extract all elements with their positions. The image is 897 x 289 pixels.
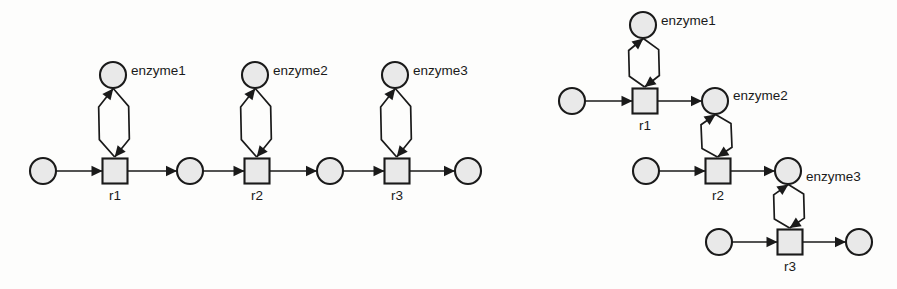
arc-linear-chain-e3-to-r3-arrowhead bbox=[397, 145, 408, 157]
labels-layer: enzyme1enzyme2enzyme3r1r2r3enzyme1enzyme… bbox=[109, 13, 861, 275]
arc-linear-chain-r3-to-e3 bbox=[381, 88, 397, 157]
place-linear-chain-e2-enzyme[interactable] bbox=[242, 62, 268, 88]
transition-cascade-chain-r3[interactable] bbox=[778, 230, 803, 255]
arc-linear-chain-r1-to-s1-arrowhead bbox=[166, 166, 177, 176]
arc-cascade-chain-s0-to-r1-arrowhead bbox=[622, 96, 633, 106]
place-label-linear-chain-e3: enzyme3 bbox=[413, 63, 468, 78]
arc-cascade-chain-r2-to-e2-arrowhead bbox=[704, 114, 716, 125]
nodes-layer bbox=[30, 12, 872, 255]
place-linear-chain-s0-metabolite[interactable] bbox=[30, 158, 56, 184]
arc-linear-chain-r2-to-s2-arrowhead bbox=[306, 166, 317, 176]
arc-cascade-chain-s1-to-r2-arrowhead bbox=[695, 166, 706, 176]
arc-linear-chain-r3-to-s3-arrowhead bbox=[444, 166, 455, 176]
arc-linear-chain-r1-to-e1 bbox=[99, 88, 115, 157]
place-cascade-chain-s2-metabolite[interactable] bbox=[706, 229, 732, 255]
arc-cascade-chain-r3-to-e3-arrowhead bbox=[776, 184, 788, 195]
arc-cascade-chain-e2-to-r2-arrowhead bbox=[717, 147, 729, 157]
place-cascade-chain-e2-enzyme[interactable] bbox=[702, 88, 728, 114]
transition-label-cascade-chain-r3: r3 bbox=[784, 259, 796, 274]
arc-linear-chain-e1-to-r1-arrowhead bbox=[115, 145, 126, 157]
petri-net-svg: enzyme1enzyme2enzyme3r1r2r3enzyme1enzyme… bbox=[0, 0, 897, 289]
diagram-canvas: enzyme1enzyme2enzyme3r1r2r3enzyme1enzyme… bbox=[0, 0, 897, 289]
arc-cascade-chain-r1-to-e2-arrowhead bbox=[691, 96, 702, 106]
arc-linear-chain-r3-to-e3-arrowhead bbox=[384, 88, 395, 100]
transition-label-linear-chain-r3: r3 bbox=[391, 188, 403, 203]
place-cascade-chain-e3-enzyme[interactable] bbox=[775, 158, 801, 184]
arc-linear-chain-s2-to-r3-arrowhead bbox=[374, 166, 385, 176]
place-linear-chain-s3-metabolite[interactable] bbox=[455, 158, 481, 184]
arc-linear-chain-r1-to-e1-arrowhead bbox=[102, 88, 113, 100]
place-label-cascade-chain-e2: enzyme2 bbox=[733, 88, 788, 103]
place-linear-chain-s2-metabolite[interactable] bbox=[317, 158, 343, 184]
arc-cascade-chain-r1-to-e1-arrowhead bbox=[632, 38, 644, 49]
arc-linear-chain-s0-to-r1-arrowhead bbox=[92, 166, 103, 176]
place-cascade-chain-s3-metabolite[interactable] bbox=[846, 229, 872, 255]
transition-label-cascade-chain-r2: r2 bbox=[712, 188, 724, 203]
place-cascade-chain-s1-metabolite[interactable] bbox=[633, 158, 659, 184]
arc-linear-chain-s1-to-r2-arrowhead bbox=[234, 166, 245, 176]
arc-linear-chain-e1-to-r1 bbox=[113, 88, 129, 157]
place-linear-chain-e3-enzyme[interactable] bbox=[382, 62, 408, 88]
place-cascade-chain-s0-metabolite[interactable] bbox=[559, 88, 585, 114]
transition-cascade-chain-r2[interactable] bbox=[706, 159, 731, 184]
arc-linear-chain-e2-to-r2 bbox=[255, 88, 271, 157]
arc-linear-chain-r2-to-e2-arrowhead bbox=[244, 88, 255, 100]
transition-label-cascade-chain-r1: r1 bbox=[639, 118, 651, 133]
place-linear-chain-s1-metabolite[interactable] bbox=[177, 158, 203, 184]
transition-linear-chain-r2[interactable] bbox=[245, 159, 270, 184]
place-cascade-chain-e1-enzyme[interactable] bbox=[630, 12, 656, 38]
place-label-cascade-chain-e3: enzyme3 bbox=[806, 169, 861, 184]
arc-cascade-chain-r2-to-e3-arrowhead bbox=[764, 166, 775, 176]
arc-cascade-chain-e3-to-r3-arrowhead bbox=[790, 218, 802, 228]
arc-cascade-chain-s2-to-r3-arrowhead bbox=[767, 237, 778, 247]
arc-linear-chain-r2-to-e2 bbox=[241, 88, 257, 157]
transition-linear-chain-r3[interactable] bbox=[385, 159, 410, 184]
place-linear-chain-e1-enzyme[interactable] bbox=[100, 62, 126, 88]
transition-linear-chain-r1[interactable] bbox=[103, 159, 128, 184]
transition-cascade-chain-r1[interactable] bbox=[633, 89, 658, 114]
arc-cascade-chain-e1-to-r1-arrowhead bbox=[645, 76, 657, 87]
place-label-linear-chain-e1: enzyme1 bbox=[131, 63, 186, 78]
arc-cascade-chain-r3-to-s3-arrowhead bbox=[835, 237, 846, 247]
arc-linear-chain-e3-to-r3 bbox=[395, 88, 411, 157]
arc-linear-chain-e2-to-r2-arrowhead bbox=[257, 145, 268, 157]
place-label-cascade-chain-e1: enzyme1 bbox=[661, 13, 716, 28]
transition-label-linear-chain-r2: r2 bbox=[251, 188, 263, 203]
place-label-linear-chain-e2: enzyme2 bbox=[273, 63, 328, 78]
transition-label-linear-chain-r1: r1 bbox=[109, 188, 121, 203]
